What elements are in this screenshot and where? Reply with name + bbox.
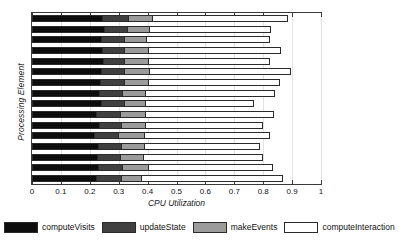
bar-segment-computeVisits (32, 143, 98, 150)
bar-segment-computeInteraction (148, 58, 270, 65)
legend-swatch-computeInteraction (284, 222, 318, 233)
bar-segment-computeVisits (32, 164, 98, 171)
bar-segment-computeVisits (32, 111, 96, 118)
x-tick-label: 0.9 (287, 187, 298, 196)
bar-segment-updateState (98, 143, 121, 150)
legend-swatch-makeEvents (193, 222, 227, 233)
legend-label: computeInteraction (322, 222, 394, 232)
bar-row (32, 175, 283, 182)
bar-segment-computeInteraction (145, 100, 255, 107)
bar-segment-computeVisits (32, 132, 94, 139)
bar-row (32, 47, 281, 54)
bar-segment-computeVisits (32, 68, 101, 75)
bar-row (32, 36, 270, 43)
bar-segment-updateState (96, 111, 120, 118)
legend-label: makeEvents (231, 222, 278, 232)
bar-segment-makeEvents (121, 175, 141, 182)
legend-swatch-computeVisits (4, 222, 38, 233)
x-tick-label: 0.3 (113, 187, 124, 196)
bar-segment-computeVisits (32, 36, 101, 43)
bar-segment-makeEvents (118, 132, 144, 139)
bar-row (32, 100, 254, 107)
bar-segment-makeEvents (124, 36, 146, 43)
bar-segment-makeEvents (127, 26, 150, 33)
bar-segment-makeEvents (121, 122, 144, 129)
y-axis-title: Processing Element (16, 27, 26, 177)
bar-segment-computeInteraction (146, 36, 271, 43)
bar-segment-updateState (101, 36, 123, 43)
bar-segment-makeEvents (124, 47, 148, 54)
legend-item[interactable]: makeEvents (193, 222, 285, 233)
bar-segment-updateState (99, 90, 122, 97)
x-tick-label: 1 (319, 187, 323, 196)
bar-row (32, 111, 274, 118)
x-axis-title: CPU Utilization (31, 198, 322, 208)
bar-segment-updateState (103, 58, 124, 65)
bar-row (32, 58, 270, 65)
bar-segment-computeInteraction (145, 111, 274, 118)
bar-segment-makeEvents (128, 15, 153, 22)
bar-segment-computeInteraction (145, 90, 275, 97)
bar-row (32, 26, 271, 33)
bar-row (32, 143, 260, 150)
bar-segment-updateState (94, 132, 118, 139)
bar-row (32, 154, 263, 161)
bar-segment-makeEvents (124, 100, 145, 107)
gridline (321, 13, 322, 184)
bar-segment-computeVisits (32, 58, 103, 65)
bar-segment-updateState (98, 164, 122, 171)
bar-segment-makeEvents (124, 79, 148, 86)
bar-segment-computeVisits (32, 26, 104, 33)
bar-segment-makeEvents (121, 143, 144, 150)
x-tick-label: 0.8 (258, 187, 269, 196)
bar-row (32, 79, 280, 86)
x-axis-tick (321, 180, 322, 184)
x-tick-label: 0.2 (84, 187, 95, 196)
gridline (292, 13, 293, 184)
bar-segment-computeInteraction (148, 164, 273, 171)
bar-row (32, 164, 273, 171)
bar-segment-computeVisits (32, 100, 101, 107)
bar-segment-computeInteraction (141, 175, 283, 182)
bar-segment-computeInteraction (149, 68, 290, 75)
bar-segment-makeEvents (120, 154, 143, 161)
bar-segment-computeVisits (32, 47, 102, 54)
bar-segment-computeInteraction (148, 79, 280, 86)
bar-segment-makeEvents (122, 90, 145, 97)
bar-segment-computeVisits (32, 154, 97, 161)
bar-segment-updateState (99, 122, 122, 129)
bar-segment-computeInteraction (144, 132, 270, 139)
bar-segment-makeEvents (122, 164, 148, 171)
x-tick-label: 0.5 (171, 187, 182, 196)
bar-segment-computeVisits (32, 79, 100, 86)
bar-segment-computeVisits (32, 90, 99, 97)
bar-segment-makeEvents (124, 58, 148, 65)
legend-swatch-updateState (102, 222, 136, 233)
bar-segment-computeVisits (32, 175, 96, 182)
bar-segment-computeInteraction (149, 26, 271, 33)
x-tick-label: 0 (30, 187, 34, 196)
bar-segment-updateState (104, 26, 127, 33)
bar-segment-computeInteraction (152, 15, 288, 22)
bar-segment-computeInteraction (148, 47, 280, 54)
legend-item[interactable]: computeInteraction (284, 222, 399, 233)
x-axis-tick-top (321, 13, 322, 17)
x-tick-label: 0.1 (55, 187, 66, 196)
x-tick-label: 0.6 (200, 187, 211, 196)
bar-segment-makeEvents (120, 111, 145, 118)
bar-segment-updateState (100, 79, 123, 86)
legend-item[interactable]: computeVisits (4, 222, 102, 233)
bar-segment-updateState (102, 47, 125, 54)
plot-area (31, 12, 322, 185)
bar-segment-updateState (101, 100, 124, 107)
bar-segment-computeVisits (32, 15, 102, 22)
bar-segment-computeInteraction (145, 122, 263, 129)
x-axis-tick-top (292, 13, 293, 17)
x-axis-tick (292, 180, 293, 184)
legend-label: computeVisits (42, 222, 95, 232)
bar-segment-updateState (96, 175, 121, 182)
x-tick-label: 0.7 (229, 187, 240, 196)
bar-segment-updateState (97, 154, 120, 161)
legend-item[interactable]: updateState (102, 222, 193, 233)
